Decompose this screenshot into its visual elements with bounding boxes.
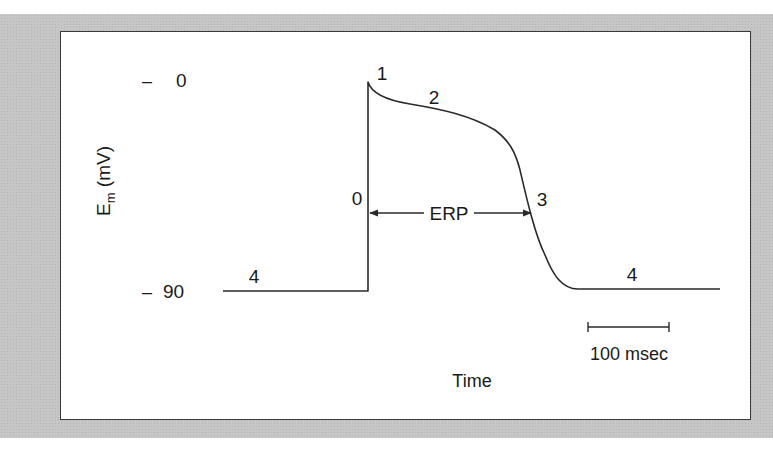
phase-label-2: 2 bbox=[429, 87, 440, 108]
svg-text:Em (mV): Em (mV) bbox=[93, 146, 118, 216]
x-axis-label: Time bbox=[452, 371, 491, 391]
phase-label-4-right: 4 bbox=[627, 264, 638, 285]
y-tick-mark-90: – bbox=[142, 282, 152, 302]
y-tick-mark-0: – bbox=[142, 71, 152, 91]
action-potential-diagram: Em (mV) – 0 – 90 0 1 2 3 4 4 ERP 100 mse… bbox=[0, 0, 773, 450]
phase-label-0: 0 bbox=[352, 188, 363, 209]
erp-label: ERP bbox=[429, 203, 468, 224]
y-tick-label-0: 0 bbox=[176, 70, 187, 91]
y-axis-label-sub: m bbox=[103, 192, 118, 203]
y-axis-label-unit: (mV) bbox=[93, 146, 114, 192]
action-potential-trace bbox=[223, 82, 720, 291]
scale-bar-label: 100 msec bbox=[590, 344, 668, 364]
scale-bar bbox=[588, 322, 669, 332]
y-axis-label-main: E bbox=[93, 203, 114, 216]
phase-label-3: 3 bbox=[537, 189, 548, 210]
y-axis-label: Em (mV) bbox=[93, 146, 118, 216]
phase-label-1: 1 bbox=[377, 63, 388, 84]
phase-label-4-left: 4 bbox=[249, 266, 260, 287]
y-tick-label-90: 90 bbox=[163, 281, 184, 302]
